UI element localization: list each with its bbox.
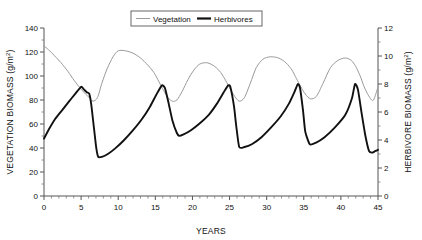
x-tick-label: 10 [114,203,123,212]
y-tick-label-left: 60 [29,120,38,129]
x-tick-label: 25 [225,203,234,212]
legend-label-herbivores: Herbivores [214,15,253,24]
x-tick-label: 0 [42,203,47,212]
y-tick-label-left: 40 [29,144,38,153]
x-tick-label: 15 [151,203,160,212]
y-tick-label-left: 120 [25,48,39,57]
x-tick-label: 5 [79,203,84,212]
y-tick-label-left: 100 [25,72,39,81]
y-tick-label-right: 0 [384,192,389,201]
y-tick-label-left: 80 [29,96,38,105]
x-tick-label: 30 [262,203,271,212]
legend-label-vegetation: Vegetation [153,15,191,24]
x-tick-label: 35 [299,203,308,212]
y-axis-title-left: VEGETATION BIOMASS (g/m2) [5,49,15,174]
y-tick-label-right: 6 [384,108,389,117]
chart-background [0,0,422,240]
x-tick-label: 20 [188,203,197,212]
legend-group: VegetationHerbivores [131,11,262,26]
x-tick-label: 40 [336,203,345,212]
y-tick-label-right: 2 [384,164,389,173]
y-tick-label-left: 20 [29,168,38,177]
biomass-line-chart: 0510152025303540450204060801001201400246… [0,0,422,240]
y-axis-title-right: HERBIVORE BIOMASS (g/m2) [403,51,413,173]
y-tick-label-left: 0 [34,192,39,201]
x-axis-title: YEARS [196,226,226,236]
x-tick-label: 45 [374,203,383,212]
y-tick-label-left: 140 [25,24,39,33]
y-tick-label-right: 8 [384,80,389,89]
y-tick-label-right: 4 [384,136,389,145]
chart-container: 0510152025303540450204060801001201400246… [0,0,422,240]
y-tick-label-right: 12 [384,24,393,33]
y-tick-label-right: 10 [384,52,393,61]
